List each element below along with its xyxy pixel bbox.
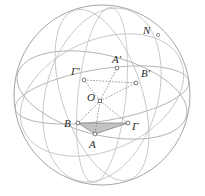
great-circle-3 (1, 10, 203, 180)
chord-gamma-prime-b-prime (84, 80, 136, 83)
radius-to-b-prime (100, 83, 136, 101)
spherical-figure: N A' Γ' B' O B Γ A (0, 0, 205, 196)
great-circle-5 (24, 0, 181, 196)
point-marker-gamma-prime (82, 78, 86, 82)
label-b: B (64, 118, 71, 129)
point-marker-gamma (126, 121, 130, 125)
great-circle-2 (8, 35, 196, 155)
point-marker-o (98, 99, 101, 102)
label-b-prime: B' (141, 68, 150, 79)
great-circle-6 (69, 5, 135, 185)
label-center-o: O (87, 92, 95, 103)
label-a-prime: A' (112, 54, 121, 65)
label-a: A (89, 139, 96, 150)
point-marker-a-prime (115, 66, 119, 70)
figure-canvas (0, 0, 205, 196)
point-marker-a (93, 132, 97, 136)
sphere-outline (14, 5, 190, 185)
point-marker-b-prime (134, 81, 138, 85)
point-markers (76, 33, 159, 136)
radius-to-b (78, 101, 100, 123)
label-north-pole: N (143, 25, 150, 36)
radius-to-a-prime (100, 68, 117, 101)
point-marker-b (76, 121, 80, 125)
great-circle-group (1, 0, 203, 196)
label-gamma-prime: Γ' (71, 66, 80, 77)
label-gamma: Γ (132, 121, 138, 132)
great-circle-1 (11, 56, 193, 135)
point-marker-n (156, 33, 159, 36)
